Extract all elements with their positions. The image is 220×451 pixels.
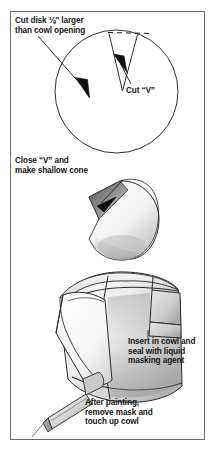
cowl-shading-upper <box>108 293 150 336</box>
cone-shading-core <box>98 235 146 257</box>
illustration-canvas <box>0 0 220 451</box>
mask-strip-tail-line <box>32 424 43 437</box>
leader-line-cut-disk <box>38 36 82 86</box>
step-2-shallow-cone <box>89 179 159 260</box>
arrowhead-cut-disk <box>76 78 90 99</box>
caption-cut-v: Cut “V” <box>126 86 186 96</box>
figure-root: Cut disk ⅛" larger than cowl opening Cut… <box>0 0 220 451</box>
inserted-mask-cone <box>56 292 112 385</box>
caption-after-painting: After painting, remove mask and touch up… <box>85 398 173 427</box>
caption-cut-disk: Cut disk ⅛" larger than cowl opening <box>15 16 123 35</box>
cowl-side-panel <box>150 290 181 325</box>
caption-close-v: Close “V” and make shallow cone <box>15 156 125 175</box>
cowl-side-panel-lower <box>149 322 181 338</box>
caption-insert-in-cowl: Insert in cowl and seal with liquid mask… <box>128 337 206 366</box>
